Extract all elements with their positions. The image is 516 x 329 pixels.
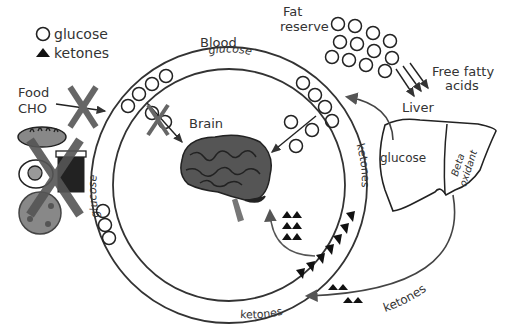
ring-glucose-top: glucose	[208, 42, 254, 58]
food-label-2: CHO	[18, 101, 47, 116]
liver-label: Liver	[402, 100, 435, 115]
legend-ketones-label: ketones	[54, 45, 109, 61]
fat-reserve-label-1: Fat	[283, 4, 302, 19]
glucose-to-brain-right	[272, 116, 319, 153]
legend-glucose-label: glucose	[54, 26, 108, 42]
food-label-1: Food	[18, 85, 49, 100]
ketone-legend-icon	[36, 48, 50, 57]
ring-ketone-molecules	[296, 211, 355, 279]
glucose-legend-icon	[37, 28, 50, 41]
fat-reserve-label-2: reserve	[280, 19, 329, 34]
liver-glucose-label: glucose	[380, 151, 426, 165]
fatty-acid-arrows	[396, 63, 428, 96]
ring-glucose-left: glucose	[86, 174, 102, 219]
brain-icon	[181, 135, 271, 222]
free-fatty-acids-label-2: acids	[445, 78, 479, 93]
ring-ketones-bottom: ketones	[240, 305, 284, 322]
outer-ketones-label: ketones	[381, 281, 428, 314]
blocked-glucose-to-brain	[146, 103, 183, 142]
fat-reserve-molecules	[326, 18, 399, 78]
brain-label: Brain	[189, 116, 223, 131]
free-fatty-acids-label-1: Free fatty	[432, 64, 494, 79]
liver-icon	[380, 119, 496, 211]
ring-ketones-right: ketones	[354, 142, 372, 188]
legend: glucose ketones	[36, 26, 109, 61]
ketosis-diagram: glucose ketones Blood glucose glucose ke…	[0, 0, 516, 329]
ketones-to-brain	[270, 211, 315, 256]
